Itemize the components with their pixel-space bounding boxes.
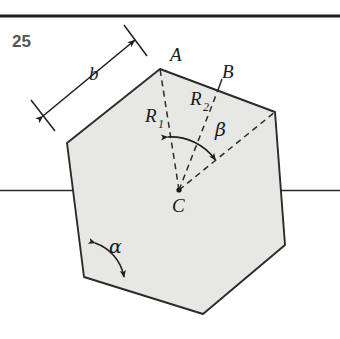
label-angle-alpha: α — [109, 235, 122, 257]
b-extension-tick-lower — [31, 100, 55, 131]
label-vertex-b: B — [222, 61, 234, 82]
label-r2-base: R — [189, 88, 202, 109]
header-rule — [0, 15, 340, 18]
label-side-b: b — [89, 63, 99, 84]
heptagon-shape — [67, 69, 285, 314]
exercise-number: 25 — [12, 32, 31, 51]
label-center-c: C — [172, 195, 185, 216]
geometry-figure-panel: 25 A B C R 1 — [0, 0, 340, 339]
label-vertex-a: A — [168, 44, 182, 65]
label-r1-subscript: 1 — [158, 117, 164, 131]
label-r1-base: R — [144, 105, 157, 126]
b-extension-tick-upper — [124, 25, 147, 56]
heptagon-diagram: 25 A B C R 1 — [0, 0, 340, 339]
label-angle-beta: β — [214, 118, 226, 140]
center-point-c — [176, 187, 181, 192]
label-r2-subscript: 2 — [203, 100, 209, 114]
